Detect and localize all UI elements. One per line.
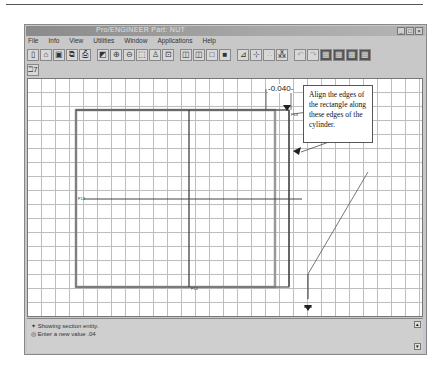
- zoom-out-icon[interactable]: ⊖: [123, 49, 135, 61]
- title-bar: Pro/ENGINEER Part: NUT _ □ ×: [26, 26, 425, 36]
- refit-icon[interactable]: ⬚: [136, 49, 148, 61]
- saved-views-icon[interactable]: ⊡: [162, 49, 174, 61]
- layers-icon[interactable]: ▦: [333, 49, 345, 61]
- open-file-icon[interactable]: ⌂: [40, 49, 52, 61]
- print-icon[interactable]: ⎙: [79, 49, 91, 61]
- menu-view[interactable]: View: [68, 37, 84, 47]
- menu-file[interactable]: File: [27, 37, 39, 47]
- entity-tag: F14: [78, 196, 85, 201]
- proe-window: Pro/ENGINEER Part: NUT _ □ × File Info V…: [24, 24, 427, 355]
- minimize-button[interactable]: _: [397, 27, 405, 35]
- entity-tag: F14: [291, 112, 298, 117]
- zoom-in-icon[interactable]: ⊕: [110, 49, 122, 61]
- datum-axes-icon[interactable]: ⊹: [250, 49, 262, 61]
- save-copy-icon[interactable]: ⧉: [66, 49, 78, 61]
- main-toolbar: ▯ ⌂ ▣ ⧉ ⎙ ◩ ⊕ ⊖ ⬚ ♙ ⊡ ◫ ◫ □ ■ ⊿ ⊹ ∴ ⁂ ↶ …: [27, 48, 371, 62]
- menu-utilities[interactable]: Utilities: [92, 37, 115, 47]
- menu-bar: File Info View Utilities Window Applicat…: [27, 37, 217, 47]
- message-area: ✦ Showing section entity. ◎ Enter a new …: [27, 318, 423, 353]
- wireframe-icon[interactable]: ◫: [180, 49, 192, 61]
- coord-sys-icon[interactable]: ⁂: [276, 49, 288, 61]
- datum-points-icon[interactable]: ∴: [263, 49, 275, 61]
- shading-icon[interactable]: ■: [219, 49, 231, 61]
- secondary-toolbar: ℶ7: [27, 64, 39, 76]
- dimension-value[interactable]: -0.040-: [268, 84, 293, 93]
- maximize-button[interactable]: □: [406, 27, 414, 35]
- message-prompt: Enter a new value .04: [38, 331, 96, 337]
- new-file-icon[interactable]: ▯: [27, 49, 39, 61]
- window-title: Pro/ENGINEER Part: NUT: [96, 26, 185, 33]
- no-hidden-icon[interactable]: □: [206, 49, 218, 61]
- model-tree-icon[interactable]: ▦: [320, 49, 332, 61]
- annotation-callout: Align the edges of the rectangle along t…: [303, 85, 373, 143]
- prompt-icon: ◎: [31, 331, 38, 337]
- grid-icon[interactable]: ▦: [346, 49, 358, 61]
- close-button[interactable]: ×: [415, 27, 423, 35]
- undo-icon[interactable]: ↶: [294, 49, 306, 61]
- context-help-icon[interactable]: ℶ7: [27, 64, 39, 76]
- orient-icon[interactable]: ♙: [149, 49, 161, 61]
- page-rule: [6, 4, 423, 5]
- message-line: Showing section entity.: [38, 323, 99, 329]
- save-icon[interactable]: ▣: [53, 49, 65, 61]
- repaint-icon[interactable]: ◩: [97, 49, 109, 61]
- menu-window[interactable]: Window: [123, 37, 148, 47]
- entity-tag: F14: [191, 286, 198, 291]
- menu-applications[interactable]: Applications: [156, 37, 193, 47]
- settings-icon[interactable]: ▦: [359, 49, 371, 61]
- info-bullet-icon: ✦: [31, 323, 38, 329]
- hidden-line-icon[interactable]: ◫: [193, 49, 205, 61]
- menu-help[interactable]: Help: [201, 37, 216, 47]
- redo-icon[interactable]: ↷: [307, 49, 319, 61]
- scroll-up-button[interactable]: ▴: [414, 321, 421, 328]
- menu-info[interactable]: Info: [47, 37, 60, 47]
- datum-planes-icon[interactable]: ⊿: [237, 49, 249, 61]
- scroll-down-button[interactable]: ▾: [414, 343, 421, 350]
